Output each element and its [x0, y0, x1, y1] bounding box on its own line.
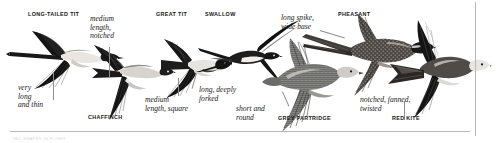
leader-line-medium-square	[178, 78, 179, 96]
species-label-pheasant: PHEASANT	[338, 12, 370, 17]
species-label-great-tit: GREAT TIT	[156, 12, 187, 17]
leader-line-medium-notched	[109, 47, 110, 78]
horizontal-divider	[10, 131, 470, 132]
leader-line-very-long-and-thin	[53, 72, 54, 100]
species-label-swallow: SWALLOW	[205, 12, 236, 17]
species-label-long-tailed-tit: LONG-TAILED TIT	[28, 12, 79, 17]
annotation-long-spike-wide-base: long spike, wide base	[281, 14, 314, 31]
annotation-very-long-and-thin: very long and thin	[18, 84, 43, 110]
bottom-caption: TAIL SHAPES IN FLIGHT	[12, 136, 66, 141]
species-label-chaffinch: CHAFFINCH	[88, 115, 123, 120]
annotation-medium-square: medium length, square	[145, 96, 188, 113]
annotation-short-and-round: short and round	[236, 105, 265, 122]
annotation-long-deeply-forked: long, deeply forked	[199, 86, 236, 103]
vertical-divider	[475, 2, 476, 136]
species-label-grey-partridge: GREY PARTRIDGE	[278, 116, 331, 121]
annotation-medium-notched: medium length, notched	[90, 15, 114, 41]
annotation-notched-fanned-twisted: notched, fanned, twisted	[360, 96, 410, 113]
species-label-red-kite: RED KITE	[392, 116, 420, 121]
tail-shapes-plate: LONG-TAILED TIT CHAFFINCH GREAT TIT SWAL…	[0, 0, 496, 143]
